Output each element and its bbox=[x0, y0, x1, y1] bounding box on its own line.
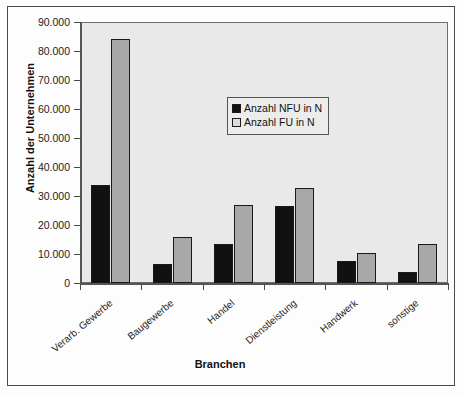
bar-fu bbox=[173, 237, 192, 283]
y-axis-tick-label: 60.000 bbox=[4, 103, 70, 115]
x-axis-tick bbox=[387, 284, 388, 290]
y-axis-tick-label: 10.000 bbox=[4, 248, 70, 260]
bar-fu bbox=[234, 205, 253, 283]
y-axis-tick bbox=[74, 22, 81, 23]
bar-nfu bbox=[398, 272, 417, 283]
y-axis-tick bbox=[74, 80, 81, 81]
y-axis-tick-label: 90.000 bbox=[4, 16, 70, 28]
y-axis-tick-label: 0 bbox=[4, 277, 70, 289]
y-axis-tick bbox=[74, 225, 81, 226]
bar-nfu bbox=[153, 264, 172, 283]
chart-legend: Anzahl NFU in N Anzahl FU in N bbox=[227, 97, 329, 135]
x-axis-tick bbox=[448, 284, 449, 290]
y-axis-tick bbox=[74, 254, 81, 255]
bar-fu bbox=[111, 39, 130, 283]
bar-fu bbox=[418, 244, 437, 283]
plot-area bbox=[80, 22, 448, 283]
y-axis-title: Anzahl der Unternehmen bbox=[24, 28, 36, 228]
legend-swatch-fu-icon bbox=[232, 118, 241, 127]
y-axis-tick bbox=[74, 138, 81, 139]
y-axis-tick bbox=[74, 196, 81, 197]
y-axis-tick bbox=[74, 167, 81, 168]
y-axis-tick bbox=[74, 51, 81, 52]
y-axis-tick-label: 40.000 bbox=[4, 161, 70, 173]
legend-item-fu: Anzahl FU in N bbox=[232, 116, 322, 129]
bar-nfu bbox=[91, 185, 110, 283]
bar-fu bbox=[295, 188, 314, 283]
legend-item-nfu: Anzahl NFU in N bbox=[232, 102, 322, 115]
y-axis-tick-label: 30.000 bbox=[4, 190, 70, 202]
legend-swatch-nfu-icon bbox=[232, 104, 241, 113]
x-axis-tick bbox=[325, 284, 326, 290]
y-axis-line bbox=[80, 22, 82, 284]
y-axis-tick-label: 80.000 bbox=[4, 45, 70, 57]
legend-label-nfu: Anzahl NFU in N bbox=[244, 102, 322, 115]
bar-nfu bbox=[337, 261, 356, 283]
y-axis-tick-label: 70.000 bbox=[4, 74, 70, 86]
legend-label-fu: Anzahl FU in N bbox=[244, 116, 315, 129]
x-axis-tick bbox=[264, 284, 265, 290]
bar-nfu bbox=[275, 206, 294, 283]
x-axis-tick bbox=[80, 284, 81, 290]
bar-fu bbox=[357, 253, 376, 283]
y-axis-tick-label: 50.000 bbox=[4, 132, 70, 144]
y-axis-tick bbox=[74, 109, 81, 110]
x-axis-tick bbox=[203, 284, 204, 290]
y-axis-tick-label: 20.000 bbox=[4, 219, 70, 231]
x-axis-title: Branchen bbox=[120, 358, 320, 370]
bar-nfu bbox=[214, 244, 233, 283]
x-axis-tick bbox=[141, 284, 142, 290]
chart-figure: 90.00080.00070.00060.00050.00040.00030.0… bbox=[0, 0, 464, 398]
